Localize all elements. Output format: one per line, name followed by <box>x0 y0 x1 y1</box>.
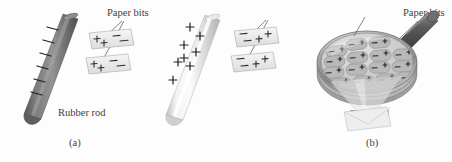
panel-c: Magnifier (c) <box>302 0 452 162</box>
paper-bit <box>86 54 131 74</box>
paper-bit <box>234 27 279 47</box>
paper-bit <box>89 29 134 49</box>
glass-rod <box>166 13 221 126</box>
panel-caption-a: (a) <box>69 138 81 149</box>
paper-bit <box>344 107 391 131</box>
rubber-rod-label: Rubber rod <box>58 108 106 119</box>
paper-bit <box>231 52 276 72</box>
panel-b: Paper bits Glass rod (b) <box>150 0 302 162</box>
panel-c-graphics <box>302 0 452 162</box>
physics-figure: Paper bits Rubber rod (a) <box>0 0 452 162</box>
panel-a: Paper bits Rubber rod (a) <box>0 0 150 162</box>
panel-b-graphics <box>150 0 302 162</box>
paper-bits-label-a: Paper bits <box>107 8 149 19</box>
